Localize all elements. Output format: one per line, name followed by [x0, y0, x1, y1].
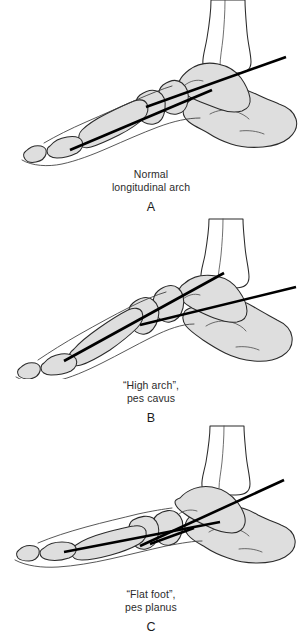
- distal-phalanx-bone: [18, 363, 41, 379]
- panel-c-caption-line-1: “Flat foot”,: [0, 588, 302, 601]
- distal-phalanx-bone: [17, 546, 40, 561]
- flat-foot-illustration: [0, 422, 302, 588]
- panel-normal-arch: Normal longitudinal arch A: [0, 0, 302, 211]
- panel-a-caption-line-2: longitudinal arch: [0, 181, 302, 194]
- panel-flat-foot: “Flat foot”, pes planus C: [0, 422, 302, 632]
- foot-arch-figure: Normal longitudinal arch A: [0, 0, 302, 632]
- panel-c-letter: C: [0, 618, 302, 632]
- panel-high-arch: “High arch”, pes cavus B: [0, 211, 302, 422]
- panel-a-caption-line-1: Normal: [0, 168, 302, 181]
- panel-b-caption-line-1: “High arch”,: [0, 379, 302, 392]
- tibia-bone: [203, 0, 251, 73]
- normal-arch-illustration: [0, 0, 302, 168]
- high-arch-illustration: [0, 211, 302, 379]
- tibia-bone: [202, 426, 250, 495]
- panel-a-caption: Normal longitudinal arch: [0, 168, 302, 193]
- panel-c-caption-line-2: pes planus: [0, 601, 302, 614]
- panel-c-caption: “Flat foot”, pes planus: [0, 588, 302, 613]
- panel-b-caption-line-2: pes cavus: [0, 392, 302, 405]
- panel-b-caption: “High arch”, pes cavus: [0, 379, 302, 404]
- distal-phalanx-bone: [24, 146, 47, 163]
